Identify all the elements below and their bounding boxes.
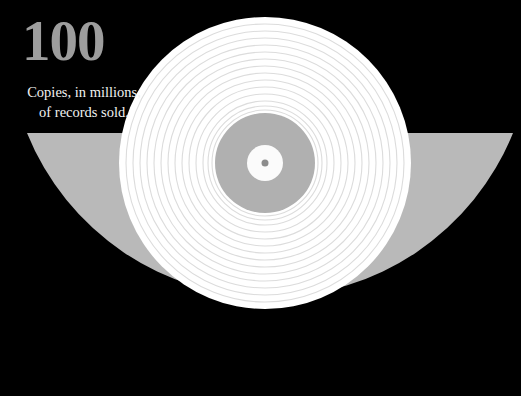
vinyl-record-group bbox=[119, 17, 411, 309]
spindle-hole bbox=[262, 160, 269, 167]
vinyl-record-infographic: 100 Copies, in millions, of records sold… bbox=[0, 0, 521, 396]
infographic-canvas bbox=[0, 0, 521, 396]
